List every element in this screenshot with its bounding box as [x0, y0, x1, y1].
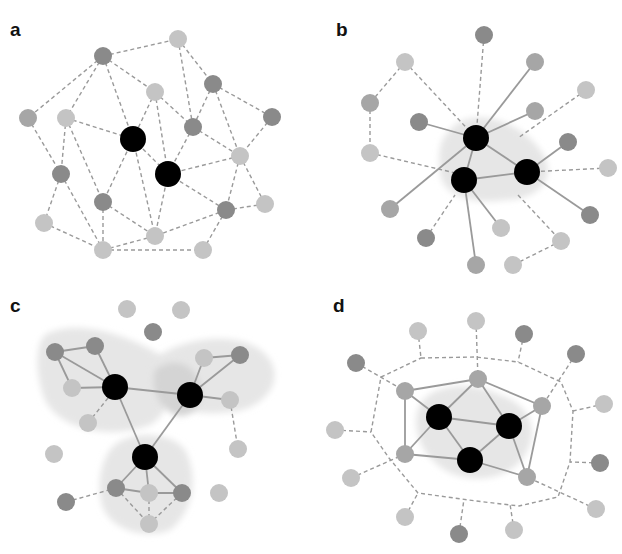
network-node: [195, 349, 213, 367]
dashed-edge: [66, 56, 103, 118]
network-node: [577, 81, 595, 99]
network-node: [396, 445, 414, 463]
network-node: [94, 193, 112, 211]
network-node: [169, 30, 187, 48]
network-node: [52, 165, 70, 183]
hub-node: [132, 444, 158, 470]
network-node: [533, 397, 551, 415]
dashed-edge: [28, 56, 103, 118]
panel-label-c: c: [10, 295, 21, 316]
panel-label-b: b: [336, 19, 348, 40]
network-node: [94, 47, 112, 65]
network-node: [505, 521, 523, 539]
network-node: [515, 325, 533, 343]
hub-node: [177, 382, 203, 408]
network-node: [595, 395, 613, 413]
hub-node: [463, 125, 489, 151]
network-node: [361, 94, 379, 112]
network-node: [475, 26, 493, 44]
dashed-edge: [28, 118, 61, 174]
network-node: [173, 484, 191, 502]
network-node: [409, 322, 427, 340]
network-node: [231, 147, 249, 165]
dashed-edge: [103, 56, 155, 92]
network-node: [450, 525, 468, 543]
network-node: [140, 515, 158, 533]
network-node: [118, 300, 136, 318]
network-node: [63, 379, 81, 397]
network-node: [94, 241, 112, 259]
network-node: [581, 206, 599, 224]
network-node: [229, 440, 247, 458]
dashed-edge: [61, 174, 103, 250]
network-node: [347, 354, 365, 372]
panel-label-d: d: [333, 295, 345, 316]
network-node: [204, 75, 222, 93]
network-node: [79, 414, 97, 432]
network-node: [469, 370, 487, 388]
dashed-edge: [178, 39, 193, 127]
network-node: [396, 382, 414, 400]
diagram-canvas: abcd: [0, 0, 622, 554]
network-node: [172, 301, 190, 319]
hub-node: [155, 161, 181, 187]
hub-node: [496, 413, 522, 439]
network-node: [263, 108, 281, 126]
hub-node: [457, 447, 483, 473]
network-node: [210, 484, 228, 502]
network-node: [467, 256, 485, 274]
network-diagram-figure: abcd: [0, 0, 622, 554]
network-node: [184, 118, 202, 136]
dashed-edge: [103, 39, 178, 56]
network-node: [599, 159, 617, 177]
network-node: [19, 109, 37, 127]
network-node: [567, 345, 585, 363]
network-node: [45, 445, 63, 463]
network-node: [467, 312, 485, 330]
network-node: [417, 229, 435, 247]
network-node: [552, 232, 570, 250]
network-node: [217, 201, 235, 219]
network-node: [194, 241, 212, 259]
dashed-edge: [542, 354, 576, 406]
panel-label-a: a: [10, 19, 21, 40]
network-node: [140, 484, 158, 502]
dashed-edge: [155, 210, 226, 236]
hub-node: [514, 159, 540, 185]
network-node: [518, 468, 536, 486]
network-node: [57, 493, 75, 511]
dashed-edge: [527, 477, 596, 509]
network-node: [504, 256, 522, 274]
hub-node: [426, 404, 452, 430]
network-node: [591, 454, 609, 472]
dashed-edge: [103, 56, 133, 139]
network-node: [410, 113, 428, 131]
network-node: [46, 343, 64, 361]
hub-node: [102, 374, 128, 400]
network-node: [396, 508, 414, 526]
network-node: [342, 469, 360, 487]
network-node: [35, 214, 53, 232]
network-node: [526, 53, 544, 71]
network-node: [57, 109, 75, 127]
dashed-edge: [103, 202, 155, 236]
hub-node: [120, 126, 146, 152]
network-node: [231, 346, 249, 364]
dashed-edge: [66, 118, 103, 202]
network-node: [256, 195, 274, 213]
network-node: [146, 227, 164, 245]
network-node: [221, 391, 239, 409]
network-node: [361, 144, 379, 162]
hub-node: [451, 167, 477, 193]
network-node: [526, 102, 544, 120]
network-node: [396, 53, 414, 71]
network-node: [144, 323, 162, 341]
network-node: [107, 479, 125, 497]
dashed-edge: [213, 84, 272, 117]
network-node: [86, 337, 104, 355]
dashed-edge: [213, 84, 240, 156]
dashed-edge: [44, 223, 103, 250]
dashed-edge: [518, 195, 561, 241]
network-node: [587, 500, 605, 518]
network-node: [559, 133, 577, 151]
